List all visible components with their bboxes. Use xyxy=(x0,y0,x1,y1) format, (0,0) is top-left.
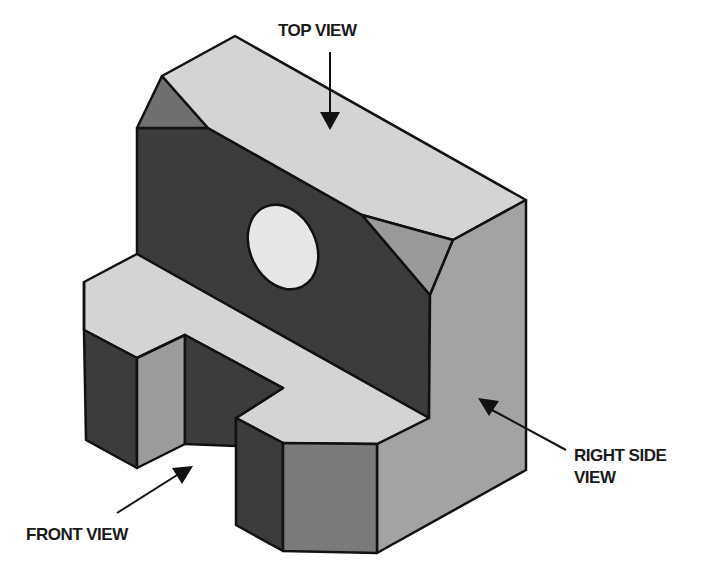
isometric-part-diagram xyxy=(0,0,717,576)
right-side-view-label-line1: RIGHT SIDE xyxy=(574,446,666,466)
front-view-arrow xyxy=(117,466,193,513)
front-view-label: FRONT VIEW xyxy=(26,525,128,545)
top-view-label: TOP VIEW xyxy=(278,21,357,41)
slot-side-face xyxy=(137,335,185,468)
base-front-chamfer-face xyxy=(283,443,377,553)
right-side-view-label-line2: VIEW xyxy=(574,468,615,488)
base-right-front-face xyxy=(236,418,283,551)
